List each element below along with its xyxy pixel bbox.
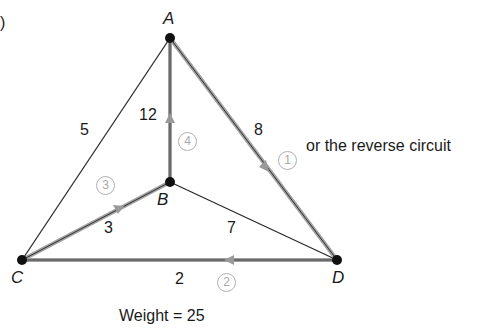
arrow-up-icon (165, 113, 175, 123)
vertex-label-a: A (163, 11, 174, 27)
vertex-c (17, 255, 27, 265)
step-marker-1: 1 (278, 151, 297, 170)
step-marker-4: 4 (178, 132, 197, 151)
total-weight: Weight = 25 (119, 308, 205, 324)
vertex-label-c: C (11, 270, 23, 286)
vertex-label-b: B (157, 192, 168, 208)
vertex-label-d: D (332, 270, 344, 286)
weight-label-ab: 12 (139, 107, 157, 123)
weight-label-bd: 7 (227, 220, 236, 236)
arrow-left-icon (224, 255, 234, 265)
edge-b-d (170, 182, 337, 260)
part-label: ) (0, 15, 5, 31)
step-marker-2: 2 (217, 273, 236, 292)
reverse-circuit-note: or the reverse circuit (306, 138, 451, 154)
vertex-d (332, 255, 342, 265)
weight-label-cb: 3 (104, 220, 113, 236)
circuit-edges (22, 38, 337, 260)
edge-a-c (22, 38, 170, 260)
weight-label-ac: 5 (80, 122, 89, 138)
step-marker-3: 3 (96, 176, 115, 195)
vertex-b (165, 177, 175, 187)
weight-label-ad: 8 (254, 122, 263, 138)
vertex-a (165, 33, 175, 43)
weight-label-dc: 2 (175, 271, 184, 287)
graph-canvas (0, 0, 493, 331)
